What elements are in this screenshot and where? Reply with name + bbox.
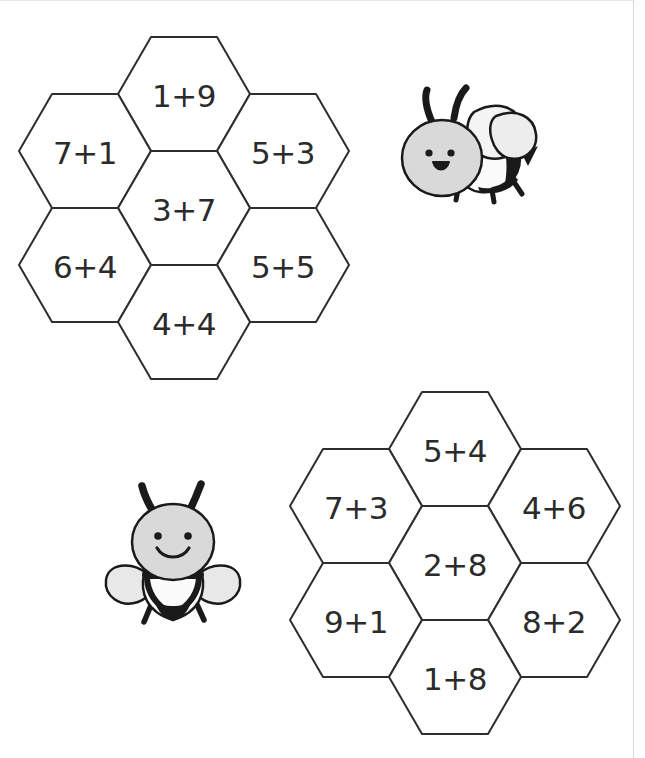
hex-label: 5+5 <box>251 249 315 285</box>
hex-label: 5+4 <box>423 433 487 469</box>
scan-edge-top <box>0 0 645 1</box>
honeycomb-top-left: 1+9 7+1 5+3 3+7 6+4 <box>10 28 350 383</box>
hex-label: 3+7 <box>152 192 216 228</box>
scan-edge-right-line <box>633 0 634 758</box>
bee-front-smiling <box>104 480 244 635</box>
hex-label: 9+1 <box>324 604 388 640</box>
antenna-icon <box>426 88 466 122</box>
hex-label: 5+3 <box>251 135 315 171</box>
bee-head <box>402 120 482 196</box>
hex-label: 4+6 <box>522 490 586 526</box>
hex-label: 2+8 <box>423 547 487 583</box>
scan-edge-right-margin <box>634 0 645 758</box>
eye-left-icon <box>154 532 162 540</box>
eye-right-icon <box>447 149 454 156</box>
hex-label: 7+1 <box>53 135 117 171</box>
bee-flying-side <box>396 82 546 207</box>
hex-label: 6+4 <box>53 249 117 285</box>
bee-head <box>132 504 214 580</box>
eye-right-icon <box>184 532 192 540</box>
hex-label: 4+4 <box>152 306 216 342</box>
hex-label: 7+3 <box>324 490 388 526</box>
hex-label: 8+2 <box>522 604 586 640</box>
honeycomb-bottom-right: 5+4 7+3 4+6 2+8 9+1 <box>281 383 621 738</box>
worksheet-page: 1+9 7+1 5+3 3+7 6+4 <box>0 0 645 758</box>
eye-left-icon <box>425 149 432 156</box>
hex-label: 1+8 <box>423 661 487 697</box>
hex-label: 1+9 <box>152 78 216 114</box>
